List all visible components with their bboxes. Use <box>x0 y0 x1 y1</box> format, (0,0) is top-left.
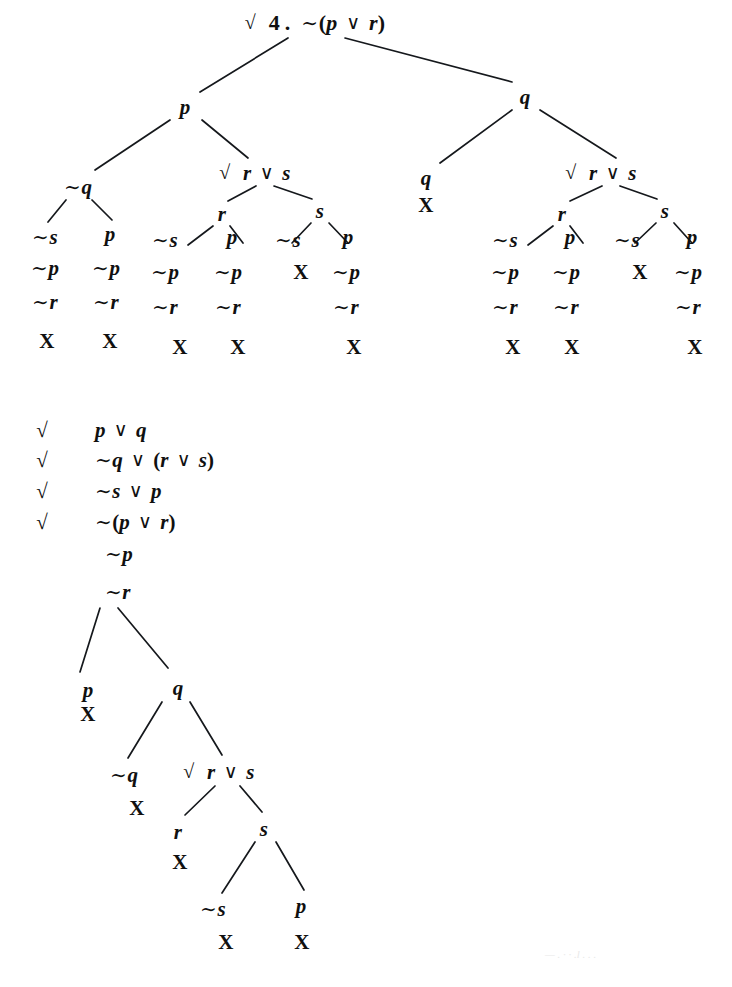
tree-branch-line <box>240 786 262 812</box>
tree-node-formula: ∼p <box>491 262 519 283</box>
tree-node-formula: s <box>316 201 324 222</box>
closed-branch-marker: X <box>346 337 361 358</box>
premise-formula: ∼s ∨ p <box>95 481 161 502</box>
tree-branch-line <box>48 200 66 222</box>
tree-node-formula: √ r ∨ s <box>183 762 254 783</box>
tree-node-formula: s <box>661 201 669 222</box>
tree-node-formula: ∼r <box>32 292 58 313</box>
tree-node-formula: ∼q <box>110 765 138 786</box>
premise-checkmark: √ <box>36 512 48 533</box>
premise-formula: ∼r <box>105 582 130 603</box>
premise-checkmark: √ <box>36 420 48 441</box>
closed-branch-marker: X <box>505 337 520 358</box>
tree-node-formula: ∼s <box>275 230 301 251</box>
tree-node-formula: ∼s <box>614 230 640 251</box>
tree-node-formula: ∼q <box>64 177 92 198</box>
tree-branch-line <box>92 200 112 220</box>
premise-formula: ∼p <box>105 544 133 565</box>
tree-node-formula: q <box>421 168 432 189</box>
tree-node-formula: q <box>173 678 184 699</box>
tree-branch-line <box>118 608 168 668</box>
tree-branch-line <box>200 38 288 92</box>
tree-node-formula: ∼r <box>675 297 701 318</box>
tree-node-formula: ∼r <box>553 297 579 318</box>
tree-branch-line <box>570 186 602 201</box>
tree-branch-line <box>228 186 256 201</box>
tree-node-formula: ∼p <box>92 258 120 279</box>
tree-branch-line <box>274 186 312 199</box>
premise-checkmark: √ <box>36 450 48 471</box>
premise-formula: ∼q ∨ (r ∨ s) <box>95 450 214 471</box>
tree-node-formula: r <box>558 204 566 225</box>
tree-node-formula: √ r ∨ s <box>565 163 636 184</box>
closed-branch-marker: X <box>418 195 433 216</box>
tree-node-formula: ∼s <box>492 230 518 251</box>
tree-node-formula: p <box>180 97 191 118</box>
tree-node-formula: ∼p <box>552 262 580 283</box>
premise-checkmark: √ <box>36 481 48 502</box>
tree-branch-line <box>540 110 616 158</box>
closed-branch-marker: X <box>218 932 233 953</box>
tree-node-formula: s <box>260 819 268 840</box>
closed-branch-marker: X <box>129 798 144 819</box>
tree-node-formula: ∼p <box>674 262 702 283</box>
tree-node-formula: p <box>105 224 116 245</box>
tree-branch-line <box>222 842 255 893</box>
closed-branch-marker: X <box>293 262 308 283</box>
tree-node-formula: p <box>296 896 307 917</box>
tree-node-formula: ∼p <box>332 262 360 283</box>
tree-node-formula: ∼p <box>31 258 59 279</box>
tree-node-formula: ∼s <box>200 899 226 920</box>
tree-node-formula: √ r ∨ s <box>219 163 290 184</box>
tree-node-formula: r <box>218 204 226 225</box>
tree-node-formula: ∼r <box>215 297 241 318</box>
tree-branch-line <box>80 608 100 672</box>
tree-branch-line <box>528 226 553 245</box>
premise-formula: p ∨ q <box>95 420 146 441</box>
tree-node-formula: ∼s <box>152 230 178 251</box>
closed-branch-marker: X <box>102 331 117 352</box>
tree-node-formula: p <box>565 227 576 248</box>
tree-branch-line <box>95 120 170 170</box>
closed-branch-marker: X <box>230 337 245 358</box>
scanner-bleed-artifact: — . · · .l . . . <box>545 948 596 960</box>
closed-branch-marker: X <box>687 337 702 358</box>
closed-branch-marker: X <box>564 337 579 358</box>
tree-node-formula: p <box>343 227 354 248</box>
closed-branch-marker: X <box>294 932 309 953</box>
premise-formula: ∼(p ∨ r) <box>95 512 175 533</box>
closed-branch-marker: X <box>172 852 187 873</box>
tree-node-formula: ∼r <box>93 292 119 313</box>
tree-branch-line <box>202 120 248 158</box>
tree-root-formula: √ 4. ∼(p ∨ r) <box>245 12 386 34</box>
tree-node-formula: ∼p <box>214 262 242 283</box>
tree-node-formula: r <box>174 822 182 843</box>
tree-node-formula: p <box>83 680 94 701</box>
closed-branch-marker: X <box>632 262 647 283</box>
tree-node-formula: ∼s <box>32 227 58 248</box>
tree-node-formula: p <box>687 227 698 248</box>
tree-node-formula: ∼r <box>492 297 518 318</box>
closed-branch-marker: X <box>39 331 54 352</box>
tree-branch-line <box>128 702 162 758</box>
closed-branch-marker: X <box>172 337 187 358</box>
tree-branch-line <box>188 226 213 245</box>
tree-branch-line <box>345 38 512 82</box>
tree-branch-line <box>440 110 512 163</box>
tree-branch-line <box>185 786 215 815</box>
truth-tree-page: √ 4. ∼(p ∨ r)pq∼q√ r ∨ sqX√ r ∨ srsrs∼s∼… <box>0 0 732 987</box>
closed-branch-marker: X <box>80 704 95 725</box>
tree-node-formula: p <box>227 227 238 248</box>
tree-branch-line <box>276 842 304 890</box>
tree-node-formula: q <box>520 87 531 108</box>
tree-branch-line <box>190 702 222 755</box>
tree-node-formula: ∼r <box>333 297 359 318</box>
tree-branch-line <box>620 186 657 199</box>
tree-node-formula: ∼r <box>152 297 178 318</box>
tree-node-formula: ∼p <box>151 262 179 283</box>
